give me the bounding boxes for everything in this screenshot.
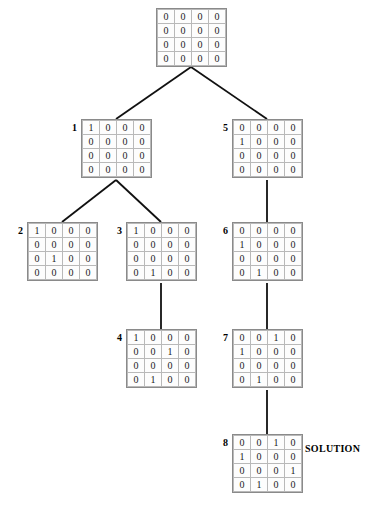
board-cell[interactable]: 1 xyxy=(234,135,251,149)
board-cell[interactable]: 0 xyxy=(63,252,80,266)
board-cell[interactable]: 0 xyxy=(234,464,251,478)
board-cell[interactable]: 1 xyxy=(268,436,285,450)
board-cell[interactable]: 0 xyxy=(285,373,302,387)
board-cell[interactable]: 0 xyxy=(234,436,251,450)
board-cell[interactable]: 0 xyxy=(268,163,285,177)
board-cell[interactable]: 0 xyxy=(234,224,251,238)
board-cell[interactable]: 0 xyxy=(29,238,46,252)
board-cell[interactable]: 0 xyxy=(251,345,268,359)
board-cell[interactable]: 0 xyxy=(128,359,145,373)
tree-node-n8[interactable]: 80010100000010100 xyxy=(214,434,303,493)
board-cell[interactable]: 0 xyxy=(268,252,285,266)
board-grid-n8[interactable]: 0010100000010100 xyxy=(232,434,303,493)
board-cell[interactable]: 0 xyxy=(285,121,302,135)
board-cell[interactable]: 0 xyxy=(285,163,302,177)
board-cell[interactable]: 0 xyxy=(251,135,268,149)
board-cell[interactable]: 0 xyxy=(175,24,192,38)
board-cell[interactable]: 0 xyxy=(209,52,226,66)
board-cell[interactable]: 1 xyxy=(145,373,162,387)
board-cell[interactable]: 0 xyxy=(63,238,80,252)
board-cell[interactable]: 0 xyxy=(158,10,175,24)
tree-node-n2[interactable]: 21000000001000000 xyxy=(9,222,98,281)
board-cell[interactable]: 0 xyxy=(162,238,179,252)
board-cell[interactable]: 0 xyxy=(158,38,175,52)
board-cell[interactable]: 0 xyxy=(179,331,196,345)
board-cell[interactable]: 0 xyxy=(192,24,209,38)
board-cell[interactable]: 0 xyxy=(128,345,145,359)
board-cell[interactable]: 0 xyxy=(128,373,145,387)
board-cell[interactable]: 0 xyxy=(268,450,285,464)
board-cell[interactable]: 1 xyxy=(251,373,268,387)
board-grid-n2[interactable]: 1000000001000000 xyxy=(27,222,98,281)
board-cell[interactable]: 0 xyxy=(285,238,302,252)
board-cell[interactable]: 0 xyxy=(145,331,162,345)
board-cell[interactable]: 0 xyxy=(268,373,285,387)
board-cell[interactable]: 0 xyxy=(251,450,268,464)
board-cell[interactable]: 0 xyxy=(179,266,196,280)
board-cell[interactable]: 0 xyxy=(268,238,285,252)
board-cell[interactable]: 0 xyxy=(285,478,302,492)
board-grid-n5[interactable]: 0000100000000000 xyxy=(232,119,303,178)
board-cell[interactable]: 0 xyxy=(234,121,251,135)
board-grid-n1[interactable]: 1000000000000000 xyxy=(81,119,152,178)
board-cell[interactable]: 0 xyxy=(285,252,302,266)
board-cell[interactable]: 0 xyxy=(80,252,97,266)
board-cell[interactable]: 0 xyxy=(285,331,302,345)
board-cell[interactable]: 0 xyxy=(158,52,175,66)
board-grid-n3[interactable]: 1000000000000100 xyxy=(126,222,197,281)
board-cell[interactable]: 1 xyxy=(268,331,285,345)
board-cell[interactable]: 0 xyxy=(251,331,268,345)
board-cell[interactable]: 0 xyxy=(83,135,100,149)
board-cell[interactable]: 0 xyxy=(80,266,97,280)
board-cell[interactable]: 0 xyxy=(268,224,285,238)
board-cell[interactable]: 0 xyxy=(63,224,80,238)
board-cell[interactable]: 0 xyxy=(285,149,302,163)
board-cell[interactable]: 0 xyxy=(162,373,179,387)
board-cell[interactable]: 1 xyxy=(285,464,302,478)
board-cell[interactable]: 0 xyxy=(209,38,226,52)
board-cell[interactable]: 1 xyxy=(145,266,162,280)
tree-node-n3[interactable]: 31000000000000100 xyxy=(108,222,197,281)
board-cell[interactable]: 0 xyxy=(251,464,268,478)
board-cell[interactable]: 0 xyxy=(268,266,285,280)
board-cell[interactable]: 0 xyxy=(46,266,63,280)
board-cell[interactable]: 0 xyxy=(268,464,285,478)
board-cell[interactable]: 0 xyxy=(234,149,251,163)
board-cell[interactable]: 0 xyxy=(234,266,251,280)
board-cell[interactable]: 1 xyxy=(128,224,145,238)
board-cell[interactable]: 0 xyxy=(234,331,251,345)
board-cell[interactable]: 1 xyxy=(29,224,46,238)
board-cell[interactable]: 1 xyxy=(234,345,251,359)
board-cell[interactable]: 0 xyxy=(145,224,162,238)
board-cell[interactable]: 0 xyxy=(145,252,162,266)
board-cell[interactable]: 1 xyxy=(46,252,63,266)
board-cell[interactable]: 0 xyxy=(251,436,268,450)
board-cell[interactable]: 0 xyxy=(179,345,196,359)
board-cell[interactable]: 0 xyxy=(285,266,302,280)
board-cell[interactable]: 0 xyxy=(251,163,268,177)
board-cell[interactable]: 1 xyxy=(251,478,268,492)
board-cell[interactable]: 0 xyxy=(158,24,175,38)
board-cell[interactable]: 0 xyxy=(179,373,196,387)
board-cell[interactable]: 0 xyxy=(268,478,285,492)
board-cell[interactable]: 0 xyxy=(117,121,134,135)
board-cell[interactable]: 0 xyxy=(179,252,196,266)
board-cell[interactable]: 1 xyxy=(128,331,145,345)
board-cell[interactable]: 0 xyxy=(134,163,151,177)
board-grid-n6[interactable]: 0000100000000100 xyxy=(232,222,303,281)
board-grid-root[interactable]: 0000000000000000 xyxy=(156,8,227,67)
board-grid-n7[interactable]: 0010100000000100 xyxy=(232,329,303,388)
board-cell[interactable]: 0 xyxy=(251,359,268,373)
board-cell[interactable]: 0 xyxy=(209,10,226,24)
board-cell[interactable]: 0 xyxy=(285,450,302,464)
board-cell[interactable]: 0 xyxy=(80,238,97,252)
board-cell[interactable]: 0 xyxy=(268,359,285,373)
tree-node-root[interactable]: 0000000000000000 xyxy=(138,8,227,67)
board-cell[interactable]: 0 xyxy=(268,149,285,163)
board-cell[interactable]: 0 xyxy=(83,163,100,177)
tree-node-n1[interactable]: 11000000000000000 xyxy=(63,119,152,178)
board-cell[interactable]: 0 xyxy=(234,373,251,387)
board-cell[interactable]: 0 xyxy=(251,149,268,163)
tree-node-n7[interactable]: 70010100000000100 xyxy=(214,329,303,388)
board-cell[interactable]: 0 xyxy=(268,135,285,149)
